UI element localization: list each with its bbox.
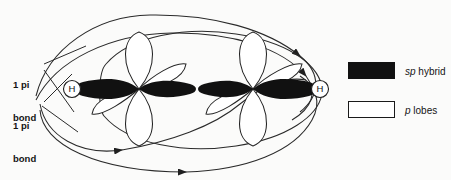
legend-label-p-lobes: p lobes [405,105,437,116]
legend-swatch-sp-hybrid [348,62,395,79]
hydrogen-right-label: H [313,82,327,96]
hydrogen-left-label: H [65,82,79,96]
orbital-diagram-figure: 1 pi bond 1 pi bond H H sp hybrid p lobe… [0,0,451,180]
p-lobe-left-down [125,89,152,146]
leader-line-pi-top [44,46,86,64]
p-lobe-right-down [239,89,266,146]
annotation-pi-bond-bottom: 1 pi bond [13,98,36,180]
sp-hybrid-orbitals [76,79,316,99]
annotation-pi-bond-bottom-line2: bond [13,153,36,164]
legend-label-sp-hybrid-italic: sp [405,66,416,77]
annotation-pi-bond-bottom-line1: 1 pi [13,120,36,131]
legend-label-sp-hybrid-plain: hybrid [416,66,446,77]
legend-label-sp-hybrid: sp hybrid [405,66,446,77]
legend-swatch-p-lobes [348,101,395,118]
annotation-pi-bond-top-line1: 1 pi [13,79,36,90]
pi-envelope-lower-front [40,104,122,151]
legend-label-p-lobes-plain: lobes [411,105,438,116]
